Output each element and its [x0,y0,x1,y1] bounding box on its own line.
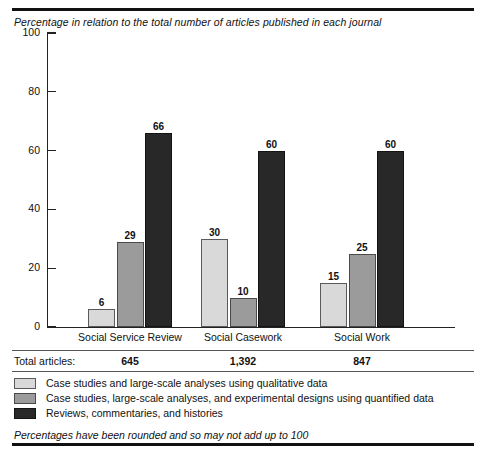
y-tick-label-40: 40 [0,203,40,214]
legend-label: Case studies, large-scale analyses, and … [46,392,434,405]
x-axis-line [47,327,455,328]
bar-slot: 29 [117,33,144,327]
chart-figure: Percentage in relation to the total numb… [0,0,486,449]
legend: Case studies and large-scale analyses us… [14,377,474,422]
bar-value-label: 6 [99,298,105,308]
bar: 29 [117,242,144,327]
bar-slot: 66 [145,33,172,327]
totals-rule-bottom [12,371,474,372]
bar: 25 [349,254,376,328]
bar-value-label: 30 [209,228,220,238]
bar: 66 [145,133,172,327]
group-label: Social Work [282,331,442,343]
bar-value-label: 60 [266,140,277,150]
y-tick-label-0: 0 [0,321,40,332]
bar: 30 [201,239,228,327]
bar-slot: 10 [230,33,257,327]
total-articles-value: 847 [282,355,442,367]
bar-value-label: 15 [328,272,339,282]
bar-slot: 6 [88,33,115,327]
legend-label: Reviews, commentaries, and histories [46,407,223,420]
bottom-rule [12,443,474,446]
light-gray-swatch [14,378,36,389]
medium-gray-swatch [14,393,36,404]
legend-item: Reviews, commentaries, and histories [14,407,474,421]
footnote: Percentages have been rounded and so may… [14,429,308,441]
bar-value-label: 25 [356,243,367,253]
bar: 60 [258,151,285,327]
bar-value-label: 10 [237,287,248,297]
y-tick-label-20: 20 [0,262,40,273]
bar-value-label: 29 [124,231,135,241]
dark-swatch [14,408,36,419]
y-tick-label-100: 100 [0,27,40,38]
bar: 60 [377,151,404,327]
bars-layer: 62966301060152560 [47,33,455,327]
totals-rule-top [12,350,474,351]
bar-value-label: 60 [385,140,396,150]
bar-slot: 25 [349,33,376,327]
legend-item: Case studies and large-scale analyses us… [14,377,474,391]
legend-label: Case studies and large-scale analyses us… [46,377,327,390]
bar: 15 [320,283,347,327]
bar: 10 [230,298,257,327]
y-tick-label-80: 80 [0,86,40,97]
bar-slot: 30 [201,33,228,327]
bar-slot: 60 [258,33,285,327]
legend-item: Case studies, large-scale analyses, and … [14,392,474,406]
y-tick-label-60: 60 [0,145,40,156]
bar-value-label: 66 [153,122,164,132]
bar: 6 [88,309,115,327]
bar-slot: 15 [320,33,347,327]
bar-slot: 60 [377,33,404,327]
